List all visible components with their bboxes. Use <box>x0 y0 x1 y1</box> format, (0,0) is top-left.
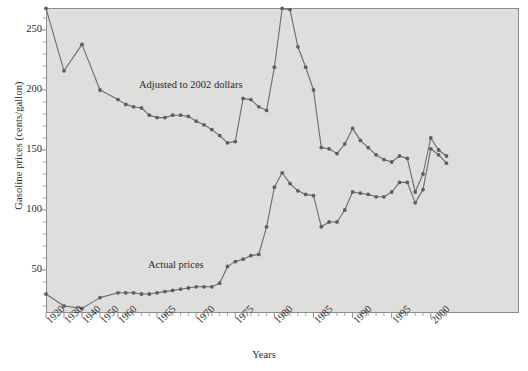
annotation-adjusted-label: Adjusted to 2002 dollars <box>139 79 243 90</box>
x-tick-label: 1940 <box>80 303 103 326</box>
annotation-actual-label: Actual prices <box>148 259 204 270</box>
x-tick-label: 1980 <box>272 303 295 326</box>
gasoline-price-chart: 25020015010050 Gasoline prices (cents/ga… <box>0 0 528 371</box>
x-axis-ticks: 1920193019401950196019651970197519801985… <box>0 0 528 371</box>
x-tick-label: 1960 <box>116 303 139 326</box>
x-tick-label: 1985 <box>312 303 335 326</box>
x-tick-label: 1990 <box>351 303 374 326</box>
x-tick-label: 1930 <box>62 303 85 326</box>
x-tick-label: 1950 <box>98 303 121 326</box>
x-tick-label: 1965 <box>155 303 178 326</box>
x-tick-label: 1995 <box>390 303 413 326</box>
x-axis-title: Years <box>0 349 528 360</box>
x-tick-label: 1920 <box>44 303 67 326</box>
x-tick-label: 1975 <box>233 303 256 326</box>
x-tick-label: 1970 <box>194 303 217 326</box>
x-tick-label: 2000 <box>429 303 452 326</box>
